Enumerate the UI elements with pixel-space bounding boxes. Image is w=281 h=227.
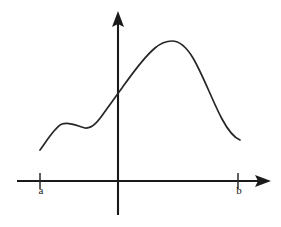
graph-canvas: a b [0,0,281,227]
y-axis-group [112,11,124,215]
function-curve [40,41,240,150]
tick-mark-a: a [39,173,44,196]
function-graph-figure: a b [0,0,281,227]
x-axis-group [17,175,271,187]
tick-mark-b: b [236,173,242,196]
tick-label-a: a [39,184,44,196]
tick-label-b: b [236,184,242,196]
